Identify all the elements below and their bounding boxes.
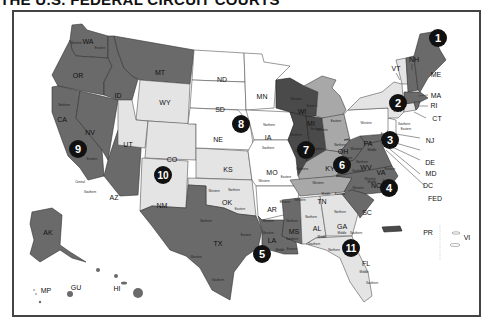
- district-wv-southern: Southern: [352, 169, 365, 173]
- label-fed: FED: [428, 195, 442, 202]
- label-wa: WA: [82, 38, 93, 45]
- district-wa-eastern: Eastern: [95, 46, 106, 50]
- label-tn: TN: [317, 198, 326, 205]
- label-mt: MT: [155, 69, 166, 76]
- district-fl-southern: Southern: [366, 281, 379, 285]
- district-ia-northern: Northern: [263, 123, 275, 127]
- circuit-marker-4[interactable]: 4: [380, 179, 398, 197]
- circuit-marker-7[interactable]: 7: [297, 141, 315, 159]
- district-ar-western: Western: [262, 219, 273, 223]
- circuit-marker-6[interactable]: 6: [333, 156, 351, 174]
- district-la-middle: Middle: [276, 248, 285, 252]
- svg-text:1: 1: [435, 32, 441, 44]
- label-mp: MP: [41, 287, 52, 294]
- district-al-middle: Middle: [318, 235, 327, 239]
- label-ma: MA: [431, 92, 442, 99]
- district-wa-western: Western: [70, 41, 81, 45]
- label-gu: GU: [71, 284, 82, 291]
- district-la-western: Western: [262, 231, 273, 235]
- district-il-northern: Northern: [290, 133, 302, 137]
- label-vi: VI: [464, 234, 471, 241]
- circuit-marker-10[interactable]: 10: [154, 166, 172, 184]
- circuit-marker-9[interactable]: 9: [69, 140, 87, 158]
- district-ga-southern: Southern: [350, 231, 363, 235]
- label-mn: MN: [257, 93, 268, 100]
- state-ak[interactable]: [30, 208, 86, 262]
- label-ks: KS: [223, 166, 233, 173]
- district-fl-middle: Middle: [360, 270, 369, 274]
- circuit-marker-11[interactable]: 11: [342, 239, 360, 257]
- district-tn-western: Western: [294, 198, 305, 202]
- label-la: LA: [268, 237, 277, 244]
- label-ok: OK: [222, 199, 232, 206]
- label-ut: UT: [123, 141, 133, 148]
- district-ia-southern: Southern: [262, 146, 275, 150]
- district-al-northern: Northern: [305, 215, 317, 219]
- label-mo: MO: [266, 169, 278, 176]
- label-fl: FL: [362, 260, 370, 267]
- district-tx-eastern: Eastern: [241, 233, 252, 237]
- svg-text:4: 4: [386, 182, 393, 194]
- circuit-marker-5[interactable]: 5: [253, 245, 271, 263]
- label-nj: NJ: [426, 137, 435, 144]
- label-ar: AR: [267, 206, 277, 213]
- label-tx: TX: [214, 240, 223, 247]
- label-md: MD: [426, 170, 437, 177]
- label-hi: HI: [114, 285, 121, 292]
- label-oh: OH: [338, 148, 349, 155]
- svg-text:7: 7: [303, 144, 309, 156]
- district-va-eastern: Eastern: [385, 167, 396, 171]
- circuit-marker-3[interactable]: 3: [381, 131, 399, 149]
- label-ga: GA: [337, 223, 347, 230]
- circuit-marker-2[interactable]: 2: [389, 94, 407, 112]
- district-ar-eastern: Eastern: [280, 200, 291, 204]
- label-ri: RI: [431, 102, 438, 109]
- district-mi-eastern: Eastern: [331, 119, 342, 123]
- district-ca-eastern: Eastern: [87, 157, 98, 161]
- district-tx-southern: Southern: [212, 278, 225, 282]
- label-pr: PR: [423, 229, 433, 236]
- district-ok-northern: Northern: [228, 188, 240, 192]
- guam-island[interactable]: [67, 291, 73, 297]
- district-tx-western: Western: [190, 255, 201, 259]
- district-al-southern: Southern: [308, 242, 321, 246]
- label-nv: NV: [85, 129, 95, 136]
- district-mo-western: Western: [258, 179, 269, 183]
- district-ny-western: Western: [360, 121, 371, 125]
- label-sc: SC: [362, 209, 372, 216]
- label-wy: WY: [159, 99, 171, 106]
- label-az: AZ: [110, 194, 120, 201]
- label-de: DE: [425, 159, 435, 166]
- state-ks[interactable]: [196, 148, 252, 180]
- label-dc: DC: [423, 182, 433, 189]
- district-ms-southern: Southern: [286, 237, 299, 241]
- district-tx-northern: Northern: [200, 219, 212, 223]
- label-sd: SD: [215, 106, 225, 113]
- label-or: OR: [73, 72, 84, 79]
- state-co[interactable]: [145, 121, 196, 160]
- label-ct: CT: [432, 115, 442, 122]
- label-ne: NE: [213, 136, 223, 143]
- svg-text:6: 6: [339, 159, 345, 171]
- district-fl-northern: Northern: [328, 248, 340, 252]
- district-wi-western: Western: [290, 97, 301, 101]
- svg-text:9: 9: [75, 143, 81, 155]
- virgin-islands[interactable]: [450, 232, 460, 247]
- district-nc-middle: Middle: [368, 180, 377, 184]
- puerto-rico[interactable]: [382, 226, 402, 232]
- district-tn-eastern: Eastern: [335, 192, 346, 196]
- district-ca-southern: Southern: [84, 190, 97, 194]
- svg-text:10: 10: [157, 170, 169, 181]
- hawaii-islands[interactable]: [96, 268, 143, 298]
- district-ga-northern: Northern: [334, 210, 346, 214]
- district-ky-western: Western: [312, 181, 323, 185]
- label-ca: CA: [57, 116, 67, 123]
- district-ga-middle: Middle: [338, 231, 347, 235]
- svg-text:3: 3: [387, 134, 393, 146]
- district-ok-eastern: Eastern: [235, 207, 246, 211]
- district-wv-northern: Northern: [356, 160, 368, 164]
- label-wi: WI: [298, 108, 307, 115]
- circuit-marker-1[interactable]: 1: [429, 29, 447, 47]
- svg-text:5: 5: [259, 248, 265, 260]
- circuit-marker-8[interactable]: 8: [232, 115, 250, 133]
